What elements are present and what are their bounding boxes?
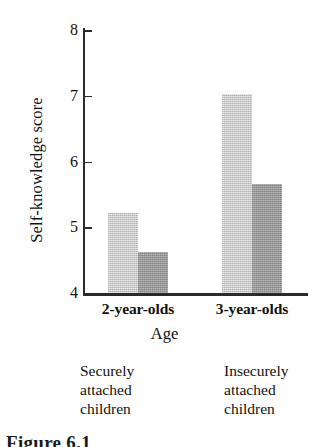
plot-area: 8 7 6 5 4 2-year-olds 3-year-olds xyxy=(83,28,308,295)
y-tick-label-7: 7 xyxy=(70,87,78,103)
chart-legend: Securely attached children Insecurely at… xyxy=(46,361,312,419)
y-tick-7: 7 xyxy=(85,96,92,98)
legend-label-insecurely: Insecurely attached children xyxy=(224,361,289,419)
legend-item-insecurely-attached: Insecurely attached children xyxy=(190,361,308,419)
y-tick-label-5: 5 xyxy=(70,219,78,235)
y-axis-title: Self-knowledge score xyxy=(27,55,47,285)
x-tick-label-3-year-olds: 3-year-olds xyxy=(216,300,288,318)
legend-swatch-securely-icon xyxy=(46,364,71,379)
legend-item-securely-attached: Securely attached children xyxy=(46,361,164,419)
y-tick-5: 5 xyxy=(85,227,92,229)
x-axis-line xyxy=(83,293,308,296)
bar-insecurely-2-year-olds xyxy=(138,252,168,293)
y-tick-label-4: 4 xyxy=(70,285,78,301)
y-tick-8: 8 xyxy=(85,30,92,32)
y-tick-label-8: 8 xyxy=(70,22,78,38)
y-tick-6: 6 xyxy=(85,162,92,164)
x-axis-title: Age xyxy=(0,324,329,344)
bar-securely-3-year-olds xyxy=(222,94,252,293)
legend-swatch-insecurely-icon xyxy=(190,364,215,379)
figure-caption: Figure 6.1 xyxy=(6,432,91,447)
y-tick-label-6: 6 xyxy=(70,153,78,169)
figure-bar-chart: Self-knowledge score 8 7 6 5 4 2-year-ol… xyxy=(0,0,329,447)
bar-securely-2-year-olds xyxy=(108,213,138,293)
legend-label-securely: Securely attached children xyxy=(80,361,134,419)
bar-insecurely-3-year-olds xyxy=(252,184,282,293)
x-tick-label-2-year-olds: 2-year-olds xyxy=(102,300,174,318)
